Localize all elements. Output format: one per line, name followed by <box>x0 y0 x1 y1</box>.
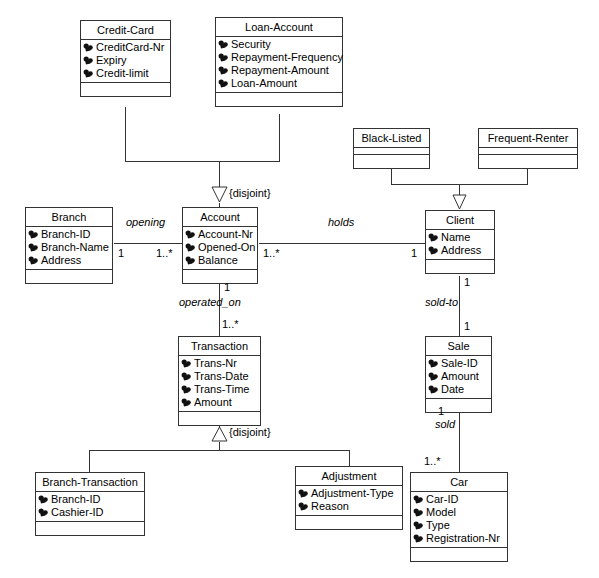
attribute-row: Cashier-ID <box>38 506 142 519</box>
private-attribute-icon <box>28 243 39 253</box>
attribute-label: Amount <box>441 370 479 382</box>
class-operations-loan-account <box>216 93 342 106</box>
attribute-label: Address <box>41 254 81 266</box>
class-box-adjustment[interactable]: Adjustment Adjustment-Type Reason <box>295 466 403 530</box>
private-attribute-icon <box>181 385 192 395</box>
attribute-label: Cashier-ID <box>51 506 104 518</box>
private-attribute-icon <box>298 502 309 512</box>
attribute-row: Loan-Amount <box>218 77 340 90</box>
attribute-label: Amount <box>194 396 232 408</box>
uml-class-diagram: Credit-Card CreditCard-Nr Expiry Credit-… <box>0 0 599 578</box>
attribute-label: CreditCard-Nr <box>96 41 164 53</box>
class-operations-transaction <box>179 412 260 425</box>
class-attributes-branch-transaction: Branch-ID Cashier-ID <box>36 492 144 522</box>
class-attributes-account: Account-Nr Opened-On Balance <box>183 227 257 270</box>
attribute-label: Repayment-Frequency <box>231 51 343 63</box>
private-attribute-icon <box>428 385 439 395</box>
class-name-frequent-renter: Frequent-Renter <box>479 129 577 148</box>
class-attributes-credit-card: CreditCard-Nr Expiry Credit-limit <box>81 40 170 83</box>
multiplicity-client-holds: 1 <box>411 247 417 259</box>
generalization-triangle-client <box>453 195 466 209</box>
attribute-row: Repayment-Frequency <box>218 51 340 64</box>
class-box-transaction[interactable]: Transaction Trans-Nr Trans-Date Trans-Ti… <box>178 336 261 426</box>
class-attributes-car: Car-ID Model Type Registration-Nr <box>411 492 507 548</box>
attribute-row: Balance <box>185 254 255 267</box>
class-box-car[interactable]: Car Car-ID Model Type Registration-Nr <box>410 472 508 562</box>
attribute-row: Amount <box>181 396 258 409</box>
private-attribute-icon <box>28 230 39 240</box>
class-attributes-adjustment: Adjustment-Type Reason <box>296 486 402 516</box>
class-box-branch[interactable]: Branch Branch-ID Branch-Name Address <box>25 207 113 284</box>
attribute-row: Name <box>428 231 492 244</box>
class-name-loan-account: Loan-Account <box>216 18 342 37</box>
private-attribute-icon <box>181 372 192 382</box>
association-label-sold-to: sold-to <box>425 296 458 308</box>
attribute-label: Car-ID <box>426 493 458 505</box>
attribute-label: Account-Nr <box>198 228 253 240</box>
attribute-label: Branch-ID <box>41 228 91 240</box>
class-name-black-listed: Black-Listed <box>354 129 429 148</box>
private-attribute-icon <box>83 43 94 53</box>
attribute-label: Model <box>426 506 456 518</box>
private-attribute-icon <box>298 489 309 499</box>
private-attribute-icon <box>413 495 424 505</box>
attribute-label: Name <box>441 231 470 243</box>
association-label-sold: sold <box>435 418 455 430</box>
attribute-label: Branch-Name <box>41 241 109 253</box>
class-box-credit-card[interactable]: Credit-Card CreditCard-Nr Expiry Credit-… <box>80 20 171 97</box>
constraint-label-disjoint-transaction: {disjoint} <box>229 426 271 438</box>
private-attribute-icon <box>218 40 229 50</box>
attribute-label: Sale-ID <box>441 357 478 369</box>
class-operations-car <box>411 548 507 561</box>
class-attributes-black-listed <box>354 148 429 155</box>
class-operations-account <box>183 270 257 283</box>
class-box-frequent-renter[interactable]: Frequent-Renter <box>478 128 578 169</box>
class-name-adjustment: Adjustment <box>296 467 402 486</box>
multiplicity-transaction-operated-on: 1..* <box>222 318 239 330</box>
attribute-row: Branch-ID <box>28 228 110 241</box>
private-attribute-icon <box>428 246 439 256</box>
multiplicity-account-opening: 1..* <box>156 247 173 259</box>
class-box-account[interactable]: Account Account-Nr Opened-On Balance <box>182 207 258 284</box>
attribute-row: Branch-Name <box>28 241 110 254</box>
class-box-loan-account[interactable]: Loan-Account Security Repayment-Frequenc… <box>215 17 343 107</box>
attribute-label: Balance <box>198 254 238 266</box>
attribute-label: Branch-ID <box>51 493 101 505</box>
attribute-row: Trans-Date <box>181 370 258 383</box>
attribute-row: Opened-On <box>185 241 255 254</box>
multiplicity-sale-sold: 1 <box>438 405 444 417</box>
class-box-branch-transaction[interactable]: Branch-Transaction Branch-ID Cashier-ID <box>35 472 145 536</box>
gen-line-loan-account <box>220 114 280 162</box>
attribute-row: Expiry <box>83 54 168 67</box>
attribute-row: Branch-ID <box>38 493 142 506</box>
private-attribute-icon <box>218 53 229 63</box>
generalization-triangle-transaction <box>212 427 227 441</box>
class-attributes-frequent-renter <box>479 148 577 155</box>
class-box-client[interactable]: Client Name Address <box>425 210 495 274</box>
attribute-row: Car-ID <box>413 493 505 506</box>
constraint-label-disjoint-account: {disjoint} <box>229 187 271 199</box>
association-label-opening: opening <box>126 216 165 228</box>
class-box-black-listed[interactable]: Black-Listed <box>353 128 430 169</box>
private-attribute-icon <box>185 256 196 266</box>
class-operations-black-listed <box>354 155 429 168</box>
attribute-row: Address <box>28 254 110 267</box>
attribute-row: Registration-Nr <box>413 532 505 545</box>
private-attribute-icon <box>185 230 196 240</box>
class-name-branch-transaction: Branch-Transaction <box>36 473 144 492</box>
class-name-account: Account <box>183 208 257 227</box>
class-attributes-sale: Sale-ID Amount Date <box>426 356 491 399</box>
attribute-label: Trans-Nr <box>194 357 237 369</box>
attribute-row: CreditCard-Nr <box>83 41 168 54</box>
attribute-label: Opened-On <box>198 241 255 253</box>
private-attribute-icon <box>413 534 424 544</box>
class-box-sale[interactable]: Sale Sale-ID Amount Date <box>425 336 492 413</box>
attribute-label: Security <box>231 38 271 50</box>
attribute-row: Trans-Nr <box>181 357 258 370</box>
attribute-label: Trans-Time <box>194 383 249 395</box>
attribute-row: Sale-ID <box>428 357 489 370</box>
private-attribute-icon <box>218 66 229 76</box>
class-operations-client <box>426 260 494 273</box>
attribute-label: Date <box>441 383 464 395</box>
association-label-holds: holds <box>328 216 354 228</box>
